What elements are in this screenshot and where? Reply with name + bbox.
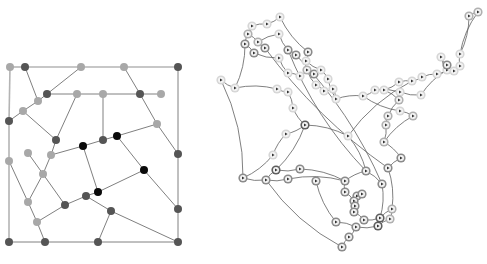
graph-node xyxy=(73,90,81,98)
edge xyxy=(140,94,157,124)
graph-node xyxy=(275,12,284,21)
left-graph-nodes xyxy=(5,63,182,246)
graph-node xyxy=(120,63,128,71)
graph-node xyxy=(247,21,256,30)
graph-node xyxy=(262,19,271,28)
graph-node xyxy=(283,174,292,183)
graph-node xyxy=(47,151,55,159)
edge xyxy=(288,50,366,171)
edge xyxy=(243,155,273,178)
graph-node xyxy=(113,132,121,140)
graph-node xyxy=(136,90,144,98)
graph-node xyxy=(301,56,310,65)
edge xyxy=(144,170,178,209)
edge xyxy=(37,205,65,222)
graph-node xyxy=(21,63,29,71)
graph-node xyxy=(34,97,42,105)
graph-node xyxy=(272,84,281,93)
graph-node xyxy=(291,50,300,59)
graph-node xyxy=(174,63,182,71)
graph-node xyxy=(281,129,290,138)
edge xyxy=(43,174,65,205)
edge xyxy=(388,168,393,209)
edge xyxy=(111,211,178,242)
edge xyxy=(86,196,111,211)
graph-node xyxy=(359,215,368,224)
graph-node xyxy=(268,150,277,159)
graph-node xyxy=(396,153,405,162)
graph-node xyxy=(395,106,404,115)
graph-node xyxy=(417,72,426,81)
graph-node xyxy=(295,164,304,173)
graph-node xyxy=(240,39,249,48)
graph-node xyxy=(238,173,247,182)
left-grid-graph xyxy=(5,63,182,246)
graph-node xyxy=(94,238,102,246)
graph-node xyxy=(375,213,384,222)
edge xyxy=(221,80,243,178)
graph-node xyxy=(82,192,90,200)
graph-node xyxy=(300,120,309,129)
edge xyxy=(363,96,400,111)
graph-node xyxy=(99,90,107,98)
graph-node xyxy=(432,69,441,78)
right-geographic-graph xyxy=(216,7,482,251)
graph-node xyxy=(77,63,85,71)
graph-node xyxy=(455,49,464,58)
graph-node xyxy=(357,189,366,198)
graph-node xyxy=(408,111,417,120)
graph-node xyxy=(343,131,352,140)
edge xyxy=(266,180,342,247)
graph-node xyxy=(5,157,13,165)
graph-node xyxy=(107,207,115,215)
graph-node xyxy=(361,166,370,175)
graph-node xyxy=(230,83,239,92)
graph-node xyxy=(39,170,47,178)
graph-node xyxy=(288,103,297,112)
graph-node xyxy=(395,87,404,96)
graph-node xyxy=(383,163,392,172)
right-graph-nodes xyxy=(216,7,482,251)
left-graph-edges xyxy=(9,67,178,242)
graph-node xyxy=(464,11,473,20)
edge xyxy=(98,211,111,242)
graph-node xyxy=(5,238,13,246)
graph-node xyxy=(24,198,32,206)
graph-node xyxy=(373,221,382,230)
edge xyxy=(316,181,336,222)
graph-node xyxy=(243,29,252,38)
graph-node xyxy=(331,94,340,103)
graph-node xyxy=(340,176,349,185)
edge xyxy=(124,67,140,94)
graph-figure xyxy=(0,0,487,264)
graph-node xyxy=(24,149,32,157)
graph-node xyxy=(377,179,386,188)
graph-node xyxy=(41,238,49,246)
edge xyxy=(305,125,348,136)
graph-node xyxy=(394,77,403,86)
graph-node xyxy=(344,232,353,241)
graph-node xyxy=(331,217,340,226)
graph-node xyxy=(328,84,337,93)
graph-node xyxy=(311,176,320,185)
graph-node xyxy=(94,188,102,196)
graph-node xyxy=(383,111,392,120)
graph-node xyxy=(323,74,332,83)
edge xyxy=(117,136,144,170)
graph-node xyxy=(253,37,262,46)
graph-node xyxy=(274,53,283,62)
graph-node xyxy=(174,150,182,158)
graph-node xyxy=(283,87,292,96)
graph-node xyxy=(19,107,27,115)
graph-node xyxy=(271,165,280,174)
edge xyxy=(56,94,77,140)
graph-node xyxy=(5,117,13,125)
graph-node xyxy=(295,71,304,80)
graph-node xyxy=(370,85,379,94)
graph-node xyxy=(33,218,41,226)
graph-node xyxy=(274,29,283,38)
edge xyxy=(380,184,383,218)
edge xyxy=(23,111,56,140)
graph-node xyxy=(337,242,346,251)
edge xyxy=(25,67,38,101)
